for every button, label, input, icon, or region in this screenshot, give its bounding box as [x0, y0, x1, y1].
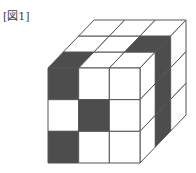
front-face-cell	[48, 100, 79, 132]
cube-diagram	[0, 0, 196, 173]
front-face-cell	[79, 68, 110, 100]
front-face-cell	[48, 68, 79, 100]
front-face-cell	[109, 100, 140, 132]
front-face-cell	[48, 131, 79, 163]
front-face-cell	[79, 100, 110, 132]
front-face-cell	[109, 131, 140, 163]
front-face-cell	[109, 68, 140, 100]
front-face-cell	[79, 131, 110, 163]
